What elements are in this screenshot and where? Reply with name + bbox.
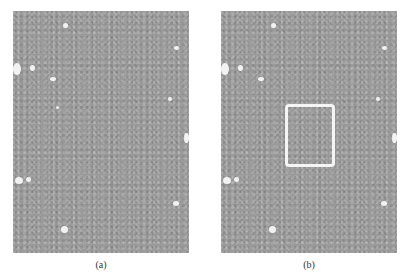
bright-spot (168, 97, 172, 101)
bright-spot (392, 133, 397, 143)
caption-a: (a) (81, 259, 121, 270)
bright-spot (234, 177, 239, 182)
bright-spot (381, 201, 387, 206)
bright-spot (63, 23, 68, 28)
bright-spot (184, 133, 189, 143)
bright-spot (271, 23, 276, 28)
bright-spot (269, 226, 276, 233)
bright-spot (61, 226, 68, 233)
bright-spot (238, 65, 243, 71)
bright-spot (258, 77, 264, 81)
bright-spot (173, 201, 179, 206)
caption-b: (b) (289, 259, 329, 270)
bright-spot (26, 177, 31, 182)
bright-spot (221, 63, 229, 75)
bright-spot (56, 106, 59, 109)
roi-box (285, 104, 335, 167)
bright-spot (13, 63, 21, 75)
bright-spot (223, 177, 231, 184)
bright-spot (376, 97, 380, 101)
bright-spot (15, 177, 23, 184)
bright-spot (382, 46, 387, 50)
noise-texture (13, 11, 189, 253)
bright-spot (30, 65, 35, 71)
image-panel-a (13, 11, 189, 253)
bright-spot (174, 46, 179, 50)
image-panel-b (221, 11, 397, 253)
bright-spot (50, 77, 56, 81)
